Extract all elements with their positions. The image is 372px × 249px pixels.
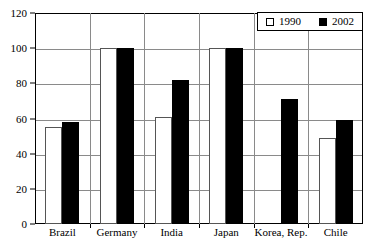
filled-square-icon bbox=[319, 18, 327, 26]
x-tick-label: Japan bbox=[199, 226, 254, 239]
y-tick-label: 100 bbox=[11, 43, 28, 54]
category-separator bbox=[308, 13, 309, 224]
bar-group bbox=[35, 13, 90, 224]
bar-chart: 020406080100120 BrazilGermanyIndiaJapanK… bbox=[0, 0, 372, 249]
bar-1990-india bbox=[155, 117, 172, 224]
category-separator bbox=[144, 13, 145, 224]
y-tick-label: 40 bbox=[16, 148, 27, 159]
y-axis: 020406080100120 bbox=[0, 0, 35, 249]
bar-2002-india bbox=[172, 80, 189, 224]
y-tick-label: 0 bbox=[22, 219, 28, 230]
bar-pair bbox=[199, 13, 254, 224]
x-tick-mark bbox=[308, 224, 309, 228]
legend-item: 1990 bbox=[266, 16, 301, 27]
bar-group bbox=[199, 13, 254, 224]
bar-pair bbox=[144, 13, 199, 224]
bar-1990-brazil bbox=[45, 127, 62, 224]
x-tick-mark bbox=[254, 224, 255, 228]
bar-2002-brazil bbox=[62, 122, 79, 224]
bar-1990-germany bbox=[100, 48, 117, 224]
bar-pair bbox=[90, 13, 145, 224]
y-tick-label: 120 bbox=[11, 8, 28, 19]
bar-group bbox=[90, 13, 145, 224]
hollow-square-icon bbox=[266, 18, 274, 26]
y-tick-label: 20 bbox=[16, 183, 27, 194]
bar-1990-japan bbox=[209, 48, 226, 224]
bar-2002-chile bbox=[336, 120, 353, 224]
x-tick-label: India bbox=[144, 226, 199, 239]
y-tick-label: 60 bbox=[16, 113, 27, 124]
x-tick-label: Brazil bbox=[35, 226, 90, 239]
bar-pair bbox=[254, 13, 309, 224]
x-tick-mark bbox=[90, 224, 91, 228]
category-separator bbox=[199, 13, 200, 224]
legend-item: 2002 bbox=[319, 16, 354, 27]
x-tick-mark bbox=[144, 224, 145, 228]
bar-pair bbox=[308, 13, 363, 224]
bar-2002-germany bbox=[117, 48, 134, 224]
chart-legend: 19902002 bbox=[257, 12, 363, 31]
bar-2002-japan bbox=[226, 48, 243, 224]
x-tick-mark bbox=[199, 224, 200, 228]
y-tick-label: 80 bbox=[16, 78, 27, 89]
bar-2002-korea-rep bbox=[281, 99, 298, 224]
legend-label: 1990 bbox=[279, 16, 301, 27]
bar-group bbox=[144, 13, 199, 224]
category-separator bbox=[90, 13, 91, 224]
bar-pair bbox=[35, 13, 90, 224]
x-tick-label: Chile bbox=[308, 226, 363, 239]
bar-group bbox=[308, 13, 363, 224]
bar-groups bbox=[35, 13, 363, 224]
category-separator bbox=[254, 13, 255, 224]
bar-1990-chile bbox=[319, 138, 336, 224]
bar-group bbox=[254, 13, 309, 224]
legend-label: 2002 bbox=[332, 16, 354, 27]
x-tick-label: Korea, Rep. bbox=[254, 226, 309, 239]
x-tick-label: Germany bbox=[90, 226, 145, 239]
